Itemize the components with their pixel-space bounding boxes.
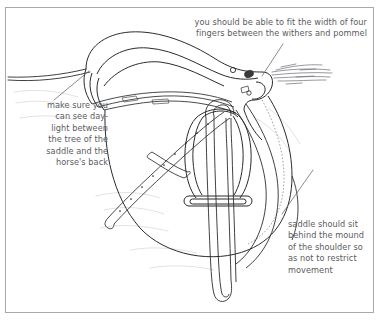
annotation-shoulder-clearance: saddle should sit behind the mound of th… bbox=[288, 219, 374, 276]
saddle-fitting-figure: you should be able to fit the width of f… bbox=[0, 0, 382, 323]
leader-tree-daylight bbox=[54, 71, 89, 100]
leader-shoulder-clearance bbox=[282, 170, 313, 214]
saddle-seat bbox=[86, 32, 262, 86]
saddle-flap bbox=[105, 96, 292, 257]
annotation-tree-daylight: make sure you can see day- light between… bbox=[8, 100, 108, 168]
horse-mane bbox=[272, 64, 332, 84]
flap-stitch-line bbox=[248, 100, 284, 244]
stirrup-leather bbox=[206, 116, 236, 301]
stirrup-iron bbox=[184, 109, 252, 206]
annotation-pommel-clearance: you should be able to fit the width of f… bbox=[182, 17, 367, 40]
leader-pommel-clearance bbox=[262, 44, 283, 76]
horse-back-line bbox=[8, 69, 90, 81]
